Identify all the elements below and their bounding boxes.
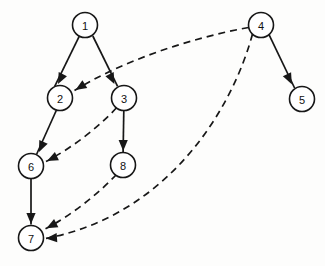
arrowhead-1-to-3	[105, 72, 114, 84]
node-7[interactable]: 7	[19, 226, 44, 251]
arrowhead-8-to-7	[47, 219, 59, 228]
node-8[interactable]: 8	[111, 153, 136, 178]
node-label-5: 5	[299, 94, 305, 106]
node-label-4: 4	[258, 20, 264, 32]
graph-diagram: 12345678	[0, 0, 325, 266]
node-2[interactable]: 2	[48, 86, 73, 111]
arrowhead-1-to-2	[58, 72, 67, 84]
node-label-3: 3	[121, 93, 127, 105]
arrowhead-3-to-8	[119, 140, 128, 151]
arrowhead-4-to-7	[46, 233, 57, 242]
node-label-7: 7	[28, 233, 34, 245]
node-1[interactable]: 1	[73, 13, 98, 38]
arrowhead-4-to-2	[76, 80, 88, 90]
node-3[interactable]: 3	[112, 86, 137, 111]
arrowhead-3-to-6	[47, 152, 59, 161]
node-5[interactable]: 5	[290, 87, 315, 112]
node-4[interactable]: 4	[249, 13, 274, 38]
edges-layer	[31, 28, 295, 239]
node-label-8: 8	[120, 160, 126, 172]
edge-3-to-6	[46, 108, 117, 162]
arrowhead-6-to-7	[26, 213, 35, 224]
edge-4-to-2	[75, 28, 249, 91]
node-label-1: 1	[82, 20, 88, 32]
edge-8-to-7	[46, 175, 117, 229]
node-label-6: 6	[28, 161, 34, 173]
arrowhead-2-to-6	[39, 140, 48, 152]
edge-4-to-7	[46, 34, 253, 238]
node-6[interactable]: 6	[19, 154, 44, 179]
graph-canvas: 12345678	[0, 0, 325, 266]
node-label-2: 2	[57, 93, 63, 105]
